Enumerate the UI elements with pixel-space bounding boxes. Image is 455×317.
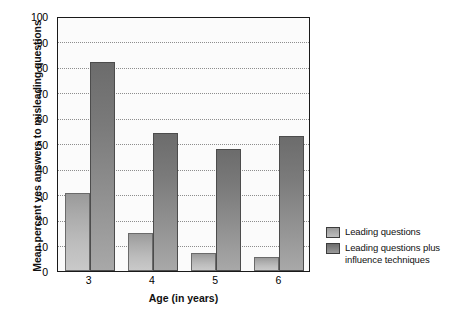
legend-swatch-icon <box>326 227 340 238</box>
plot-area <box>57 17 310 272</box>
y-axis-tick-label: 0 <box>2 266 48 278</box>
bar-group <box>191 18 241 271</box>
y-axis-tick-label: 60 <box>2 113 48 125</box>
x-axis-title: Age (in years) <box>57 292 310 304</box>
x-axis-tick-label: 6 <box>258 274 298 286</box>
y-axis-tick-label: 10 <box>2 241 48 253</box>
bar <box>153 133 178 271</box>
y-axis-tick-label: 90 <box>2 37 48 49</box>
legend-swatch-icon <box>326 243 340 254</box>
y-axis-tick-label: 80 <box>2 62 48 74</box>
bars-layer <box>58 18 309 271</box>
x-axis-tick-label: 5 <box>195 274 235 286</box>
chart-legend: Leading questionsLeading questions plus … <box>326 226 452 269</box>
y-axis-tick-label: 30 <box>2 190 48 202</box>
bar <box>90 62 115 271</box>
x-axis-tick-label: 3 <box>69 274 109 286</box>
y-axis-tick-label: 40 <box>2 164 48 176</box>
legend-label: Leading questions plus influence techniq… <box>345 242 452 265</box>
y-axis-tick-label: 100 <box>2 11 48 23</box>
bar <box>65 193 90 271</box>
y-axis-tick-label: 20 <box>2 215 48 227</box>
legend-item[interactable]: Leading questions <box>326 226 452 238</box>
bar-group <box>128 18 178 271</box>
bar-chart: Mean percent yes answers to misleading q… <box>0 0 455 317</box>
y-axis-tick-labels: 0102030405060708090100 <box>0 0 52 317</box>
x-axis-tick-labels: 3456 <box>57 274 310 290</box>
legend-item[interactable]: Leading questions plus influence techniq… <box>326 242 452 265</box>
bar <box>254 257 279 271</box>
y-axis-tick-label: 70 <box>2 88 48 100</box>
bar-group <box>65 18 115 271</box>
bar-group <box>254 18 304 271</box>
legend-label: Leading questions <box>345 226 420 238</box>
bar <box>279 136 304 271</box>
x-axis-tick-label: 4 <box>132 274 172 286</box>
y-axis-tick-label: 50 <box>2 139 48 151</box>
bar <box>191 253 216 271</box>
bar <box>216 149 241 271</box>
bar <box>128 233 153 271</box>
